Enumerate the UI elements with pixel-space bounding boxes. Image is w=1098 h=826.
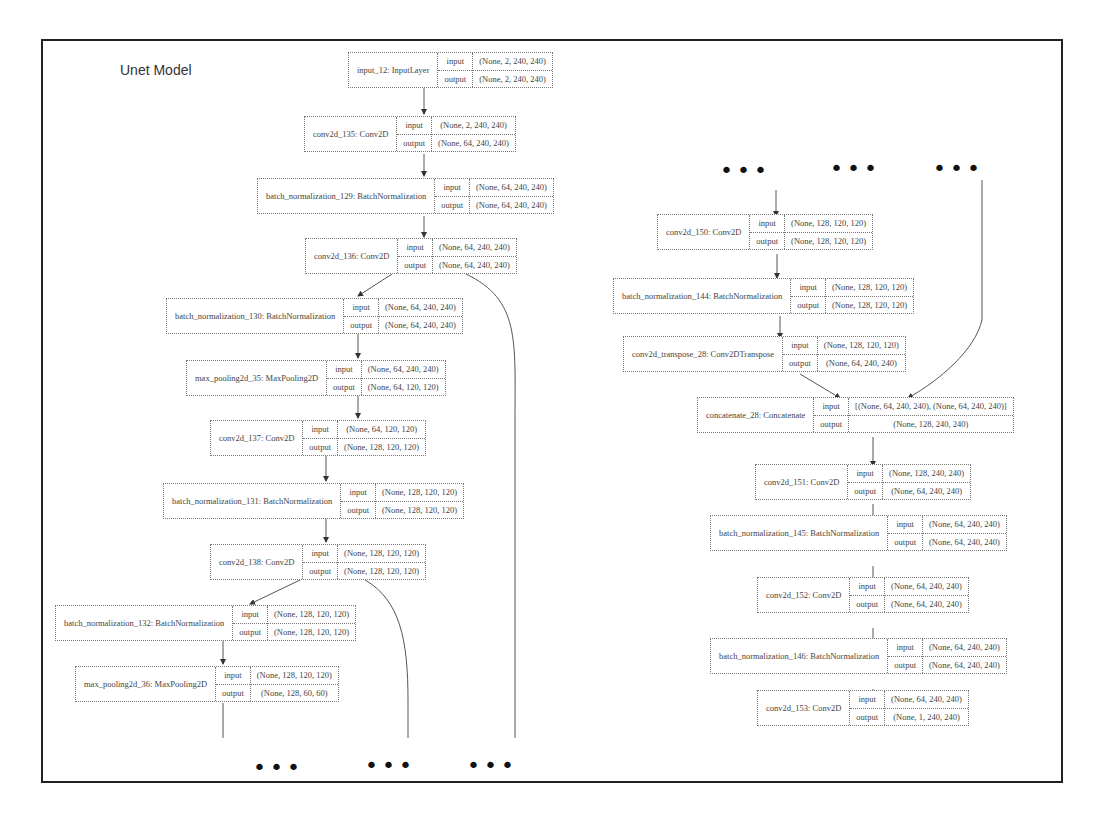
layer-node[interactable]: batch_normalization_129: BatchNormalizat… [257, 178, 554, 214]
layer-node[interactable]: conv2d_137: Conv2D inputoutput (None, 64… [210, 420, 426, 456]
layer-node[interactable]: input_12: InputLayer inputoutput (None, … [348, 52, 553, 88]
layer-node[interactable]: batch_normalization_131: BatchNormalizat… [163, 483, 464, 519]
layer-node[interactable]: batch_normalization_145: BatchNormalizat… [710, 515, 1007, 551]
layer-node[interactable]: conv2d_153: Conv2D inputoutput (None, 64… [757, 690, 969, 726]
layer-node[interactable]: batch_normalization_144: BatchNormalizat… [613, 278, 914, 314]
layer-node[interactable]: conv2d_transpose_28: Conv2DTranspose inp… [623, 336, 906, 372]
layer-node[interactable]: conv2d_138: Conv2D inputoutput (None, 12… [210, 544, 426, 580]
layer-node[interactable]: max_pooling2d_36: MaxPooling2D inputoutp… [75, 666, 339, 702]
ellipsis-marker: ••• [720, 160, 771, 182]
layer-node[interactable]: batch_normalization_146: BatchNormalizat… [710, 638, 1007, 674]
layer-node[interactable]: conv2d_151: Conv2D inputoutput (None, 12… [755, 464, 971, 500]
layer-node[interactable]: conv2d_136: Conv2D inputoutput (None, 64… [305, 238, 517, 274]
layer-node[interactable]: max_pooling2d_35: MaxPooling2D inputoutp… [186, 360, 446, 396]
layer-node[interactable]: batch_normalization_130: BatchNormalizat… [166, 298, 463, 334]
ellipsis-marker: ••• [253, 757, 304, 779]
ellipsis-marker: ••• [830, 158, 881, 180]
layer-node[interactable]: concatenate_28: Concatenate inputoutput … [697, 397, 1014, 433]
layer-node[interactable]: batch_normalization_132: BatchNormalizat… [55, 605, 356, 641]
ellipsis-marker: ••• [365, 755, 416, 777]
ellipsis-marker: ••• [467, 755, 518, 777]
ellipsis-marker: ••• [933, 158, 984, 180]
layer-node[interactable]: conv2d_152: Conv2D inputoutput (None, 64… [757, 577, 969, 613]
layer-node[interactable]: conv2d_150: Conv2D inputoutput (None, 12… [657, 214, 873, 250]
layer-node[interactable]: conv2d_135: Conv2D inputoutput (None, 2,… [304, 116, 516, 152]
